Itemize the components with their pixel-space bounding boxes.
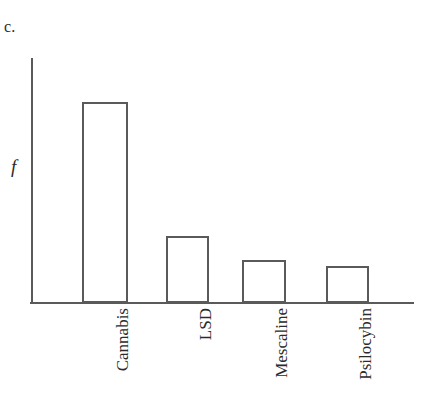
x-axis-tick-label: Psilocybin [357,308,374,380]
plot-area: CannabisLSDMescalinePsilocybin [0,0,425,407]
x-axis-tick-label-text: Cannabis [114,308,131,371]
bar [242,260,286,303]
bar [166,236,209,303]
x-axis-tick-label-text: LSD [197,308,214,340]
x-axis-tick-label: LSD [197,308,214,340]
x-axis-tick-label: Mescaline [273,308,290,378]
x-axis-tick-label: Cannabis [114,308,131,371]
bar [82,102,128,303]
bar [326,266,369,303]
x-axis-tick-label-text: Psilocybin [357,308,374,380]
x-axis-tick-label-text: Mescaline [273,308,290,378]
bar-chart-figure: c. f CannabisLSDMescalinePsilocybin [0,0,425,407]
